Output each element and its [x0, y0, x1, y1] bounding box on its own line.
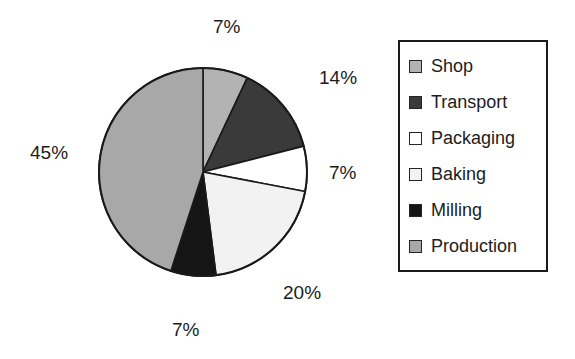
- pie-plot-area: 7% 14% 7% 20% 7% 45%: [0, 0, 390, 359]
- legend-swatch-icon: [409, 240, 422, 253]
- pie-label-baking: 20%: [283, 283, 321, 302]
- legend-item-milling[interactable]: Milling: [409, 194, 546, 226]
- legend-item-production[interactable]: Production: [409, 230, 546, 262]
- legend-item-label: Baking: [431, 165, 486, 183]
- legend-swatch-icon: [409, 96, 422, 109]
- pie-label-shop: 7%: [213, 17, 240, 36]
- legend-item-label: Shop: [431, 57, 473, 75]
- legend-swatch-icon: [409, 132, 422, 145]
- legend-item-label: Production: [431, 237, 517, 255]
- pie-label-transport: 14%: [319, 68, 357, 87]
- legend: Shop Transport Packaging Baking Milling …: [398, 40, 548, 272]
- pie-label-production: 45%: [30, 143, 68, 162]
- pie-label-milling: 7%: [172, 320, 199, 339]
- legend-swatch-icon: [409, 204, 422, 217]
- legend-swatch-icon: [409, 168, 422, 181]
- pie-chart-figure: 7% 14% 7% 20% 7% 45% Shop Transport Pack…: [0, 0, 575, 359]
- legend-item-label: Milling: [431, 201, 482, 219]
- legend-item-label: Transport: [431, 93, 507, 111]
- legend-item-packaging[interactable]: Packaging: [409, 122, 546, 154]
- legend-item-shop[interactable]: Shop: [409, 50, 546, 82]
- legend-item-transport[interactable]: Transport: [409, 86, 546, 118]
- legend-item-baking[interactable]: Baking: [409, 158, 546, 190]
- legend-swatch-icon: [409, 60, 422, 73]
- pie-label-packaging: 7%: [329, 163, 356, 182]
- legend-item-label: Packaging: [431, 129, 515, 147]
